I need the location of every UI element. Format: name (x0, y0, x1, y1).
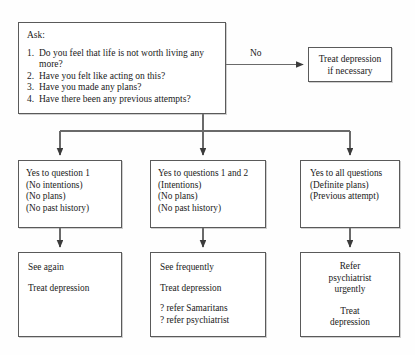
criteria-body: Yes to question 1 (No intentions) (No pl… (19, 161, 121, 221)
action-line-1: See again (28, 262, 112, 274)
action-body: See frequently Treat depression ? refer … (151, 253, 265, 335)
action-node-see-frequently: See frequently Treat depression ? refer … (150, 252, 266, 337)
question-item: 2. Have you felt like acting on this? (27, 71, 217, 82)
flowchart-canvas: Ask: 1. Do you feel that life is not wor… (0, 0, 415, 355)
criteria-text: Yes to all questions (Definite plans) (P… (310, 168, 392, 203)
question-number: 3. (27, 82, 34, 93)
ask-node-title: Ask: (27, 29, 217, 41)
action-node-refer-psychiatrist-urgently: Refer psychiatrist urgently Treat depres… (300, 252, 400, 337)
no-outcome-text: Treat depression if necessary (319, 53, 382, 77)
question-text: Have you made any plans? (39, 82, 141, 92)
action-line-2: Treat depression (310, 306, 390, 329)
action-node-see-again: See again Treat depression (18, 252, 122, 337)
criteria-text: Yes to question 1 (No intentions) (No pl… (26, 168, 114, 214)
criteria-node-all-questions: Yes to all questions (Definite plans) (P… (300, 160, 400, 228)
ask-question-list: 1. Do you feel that life is not worth li… (27, 48, 217, 105)
ask-questions-node: Ask: 1. Do you feel that life is not wor… (18, 22, 226, 114)
ask-node-body: Ask: 1. Do you feel that life is not wor… (19, 23, 225, 109)
criteria-node-questions-1-and-2: Yes to questions 1 and 2 (Intentions) (N… (150, 160, 266, 228)
treat-depression-if-necessary-node: Treat depression if necessary (308, 47, 392, 82)
criteria-body: Yes to questions 1 and 2 (Intentions) (N… (151, 161, 265, 221)
edge-label-no: No (250, 48, 262, 59)
action-line-3: ? refer Samaritans ? refer psychiatrist (160, 303, 256, 326)
action-body: Refer psychiatrist urgently Treat depres… (301, 253, 399, 348)
no-outcome-body: Treat depression if necessary (309, 48, 391, 81)
question-number: 2. (27, 71, 34, 82)
action-body: See again Treat depression (19, 253, 121, 303)
question-text: Have you felt like acting on this? (39, 71, 165, 81)
question-text: Have there been any previous attempts? (39, 94, 191, 104)
action-line-2: Treat depression (28, 283, 112, 295)
question-number: 4. (27, 94, 34, 105)
question-item: 3. Have you made any plans? (27, 82, 217, 93)
question-item: 4. Have there been any previous attempts… (27, 94, 217, 105)
criteria-body: Yes to all questions (Definite plans) (P… (301, 161, 399, 210)
action-line-2: Treat depression (160, 283, 256, 295)
question-number: 1. (27, 48, 34, 59)
criteria-node-question-1: Yes to question 1 (No intentions) (No pl… (18, 160, 122, 228)
action-line-1: Refer psychiatrist urgently (310, 261, 390, 296)
action-line-1: See frequently (160, 262, 256, 274)
question-item: 1. Do you feel that life is not worth li… (27, 48, 217, 71)
question-text: Do you feel that life is not worth livin… (39, 48, 204, 69)
criteria-text: Yes to questions 1 and 2 (Intentions) (N… (158, 168, 258, 214)
